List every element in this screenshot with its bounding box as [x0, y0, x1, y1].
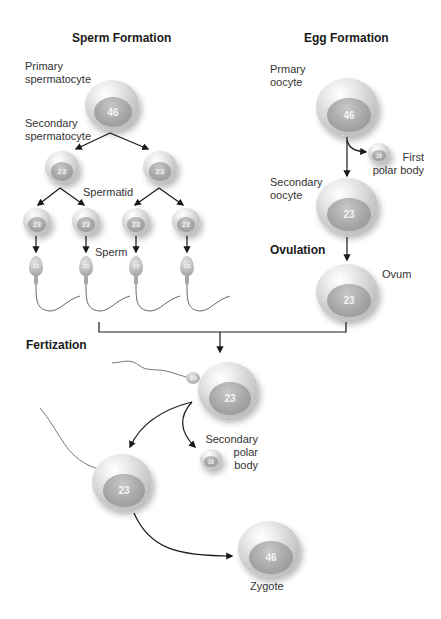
chromosome-count: 23 [177, 217, 195, 232]
primary-oocyte-cell: 46 [316, 78, 378, 136]
fused-cell: 23 [92, 454, 152, 510]
chromosome-count: 23 [127, 217, 145, 232]
label-line: Secondary [270, 176, 323, 189]
sperm-midpiece [84, 275, 88, 285]
sperm-midpiece [185, 275, 189, 285]
secondary-spermatocyte-cell-1: 23 [45, 151, 79, 183]
connector-arrows [0, 0, 441, 619]
secondary-oocyte-cell: 23 [316, 178, 378, 234]
primary-spermatocyte-cell: 46 [85, 80, 139, 130]
chromosome-count: 23 [372, 150, 386, 161]
sperm-midpiece [34, 275, 38, 285]
label-line: Prmary [270, 63, 305, 76]
egg-formation-title: Egg Formation [304, 31, 389, 45]
spermatid-label: Spermatid [83, 186, 133, 199]
fertilizing-ovum-cell: 23 [198, 362, 258, 418]
ovulation-label: Ovulation [270, 243, 325, 257]
gametogenesis-diagram: Sperm Formation Egg Formation Fertizatio… [0, 0, 441, 619]
chromosome-count: 23 [209, 382, 251, 415]
label-line: Secondary [200, 433, 258, 446]
chromosome-count: 23 [149, 162, 171, 181]
ovum-label: Ovum [382, 268, 411, 281]
chromosome-count: 23 [327, 198, 371, 231]
fertilization-title: Fertization [26, 338, 87, 352]
sperm-4: 23 [180, 256, 194, 276]
label-line: polar body [366, 164, 424, 177]
sperm-formation-title: Sperm Formation [72, 31, 171, 45]
spermatid-cell-4: 23 [172, 208, 200, 234]
sperm-label: Sperm [95, 246, 127, 259]
label-line: spermatocyte [25, 73, 91, 86]
sperm-1: 23 [29, 256, 43, 276]
sperm-midpiece [134, 275, 138, 285]
sperm-2: 23 [79, 256, 93, 276]
label-line: oocyte [270, 76, 305, 89]
secondary-spermatocyte-cell-2: 23 [143, 151, 177, 183]
label-line: spermatocyte [25, 130, 91, 143]
chromosome-count: 46 [327, 98, 371, 132]
spermatid-cell-2: 23 [72, 208, 100, 234]
chromosome-count: 46 [249, 541, 293, 574]
chromosome-count: 23 [327, 284, 371, 317]
zygote-cell: 46 [238, 521, 300, 577]
label-line: oocyte [270, 189, 323, 202]
primary-spermatocyte-label: Primary spermatocyte [25, 60, 91, 86]
spermatid-cell-1: 23 [23, 208, 51, 234]
primary-oocyte-label: Prmary oocyte [270, 63, 305, 89]
chromosome-count: 46 [94, 97, 132, 127]
label-line: Secondary [25, 117, 91, 130]
chromosome-count: 23 [77, 217, 95, 232]
chromosome-count: 23 [28, 217, 46, 232]
secondary-spermatocyte-label: Secondary spermatocyte [25, 117, 91, 143]
zygote-label: Zygote [250, 580, 284, 593]
label-line: Primary [25, 60, 91, 73]
secondary-oocyte-label: Secondary oocyte [270, 176, 323, 202]
secondary-polar-body-cell: 23 [200, 449, 222, 469]
first-polar-body-cell: 23 [368, 143, 390, 163]
chromosome-count: 23 [204, 456, 218, 467]
ovum-cell: 23 [316, 264, 378, 320]
sperm-3: 23 [129, 256, 143, 276]
penetrating-sperm-head: 23 [186, 372, 200, 384]
chromosome-count: 23 [51, 162, 73, 181]
chromosome-count: 23 [103, 474, 145, 507]
spermatid-cell-3: 23 [122, 208, 150, 234]
